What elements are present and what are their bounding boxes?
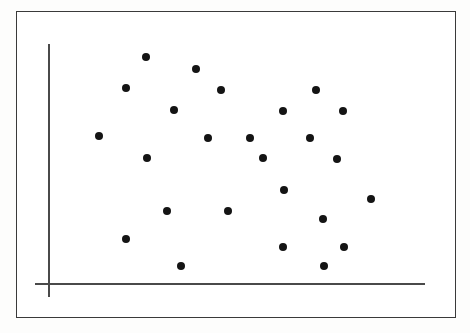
data-point xyxy=(204,134,212,142)
data-point xyxy=(319,215,327,223)
data-point xyxy=(339,107,347,115)
scatter-plot-figure xyxy=(0,0,470,333)
data-point xyxy=(192,65,200,73)
data-point xyxy=(143,154,151,162)
data-point xyxy=(259,154,267,162)
data-point xyxy=(177,262,185,270)
data-point xyxy=(333,155,341,163)
data-point xyxy=(340,243,348,251)
data-point xyxy=(122,84,130,92)
data-point xyxy=(95,132,103,140)
data-point xyxy=(246,134,254,142)
data-point xyxy=(142,53,150,61)
data-points-layer xyxy=(0,0,470,333)
data-point xyxy=(367,195,375,203)
data-point xyxy=(217,86,225,94)
data-point xyxy=(306,134,314,142)
data-point xyxy=(279,107,287,115)
data-point xyxy=(170,106,178,114)
data-point xyxy=(224,207,232,215)
data-point xyxy=(122,235,130,243)
data-point xyxy=(279,243,287,251)
data-point xyxy=(280,186,288,194)
data-point xyxy=(163,207,171,215)
data-point xyxy=(312,86,320,94)
data-point xyxy=(320,262,328,270)
